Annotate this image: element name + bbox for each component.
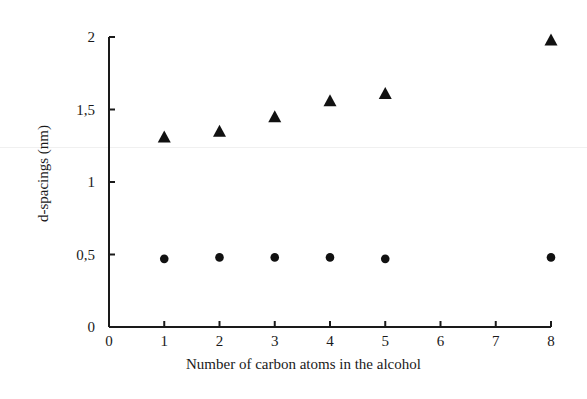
triangle-marker [324,94,337,106]
x-tick-label: 0 [105,333,113,349]
triangle-marker [379,87,392,99]
circle-marker [160,255,169,264]
y-tick-label: 1 [88,174,96,190]
y-tick-label: 1,5 [76,102,95,118]
circle-marker [381,255,390,264]
axes [109,37,551,327]
x-tick-label: 2 [216,333,224,349]
triangle-marker [158,131,171,143]
circle-marker [215,253,224,262]
x-tick-label: 7 [492,333,500,349]
y-tick-label: 2 [88,29,96,45]
scatter-plot: 00,511,52012345678 [0,0,587,399]
x-tick-label: 1 [161,333,169,349]
x-tick-label: 8 [547,333,555,349]
y-axis-label: d-spacings (nm) [35,119,52,229]
y-tick-label: 0 [88,319,96,335]
x-tick-label: 4 [326,333,334,349]
triangle-marker [213,125,226,137]
x-tick-label: 6 [437,333,445,349]
circle-marker [326,253,335,262]
x-tick-label: 5 [382,333,390,349]
y-tick-label: 0,5 [76,247,95,263]
circle-marker [270,253,279,262]
x-tick-label: 3 [271,333,279,349]
triangle-marker [545,33,558,45]
x-axis-label: Number of carbon atoms in the alcohol [186,356,421,373]
ticks: 00,511,52012345678 [76,29,555,349]
data-points [158,33,558,263]
triangle-marker [268,110,281,122]
circle-marker [547,253,556,262]
